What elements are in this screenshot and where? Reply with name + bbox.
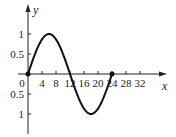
y-axis-arrow-icon [26, 4, 31, 12]
x-tick-label: 20 [93, 77, 105, 89]
x-tick-label: 16 [79, 77, 91, 89]
sine-chart: 048121620242832 10.50.51 y x [0, 0, 176, 137]
x-tick-label: 28 [121, 77, 133, 89]
point-marker [110, 72, 115, 77]
point-marker [26, 72, 31, 77]
y-axis-label: y [32, 3, 39, 17]
x-tick-label: 32 [135, 77, 146, 89]
y-tick-label: 0.5 [10, 88, 24, 100]
x-tick-label: 8 [53, 77, 59, 89]
y-tick-label: 0.5 [10, 48, 24, 60]
y-tick-label: 1 [19, 28, 25, 40]
x-axis-label: x [161, 79, 168, 93]
y-tick-label: 1 [19, 108, 25, 120]
x-tick-label: 4 [39, 77, 45, 89]
x-axis-arrow-icon [159, 72, 167, 77]
chart-figure: 048121620242832 10.50.51 y x [0, 0, 176, 137]
